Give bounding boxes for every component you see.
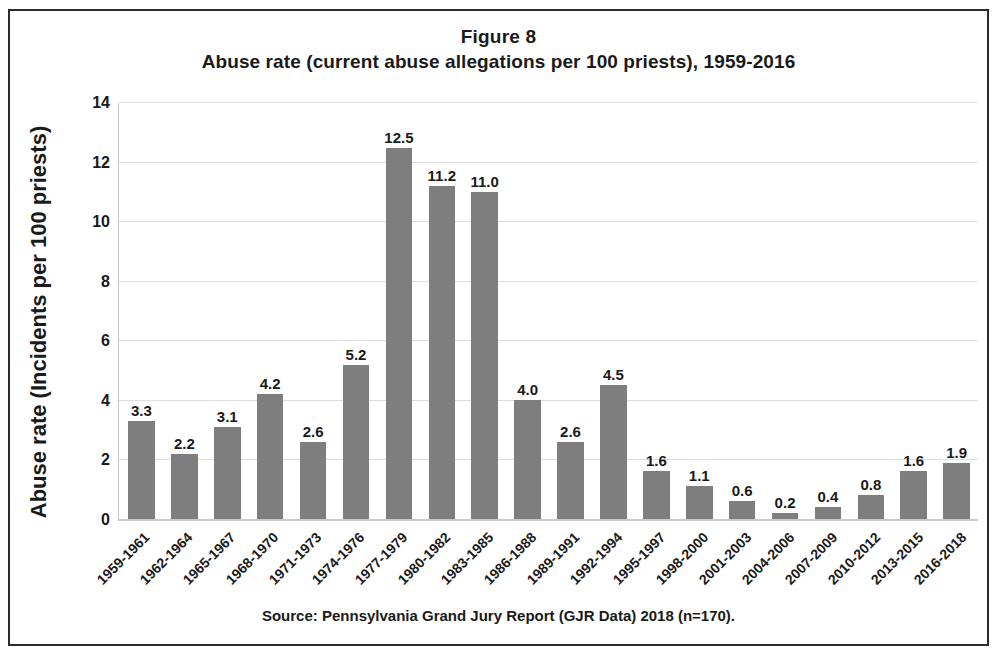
bar-value-label: 0.4	[818, 488, 839, 505]
bar[interactable]: 3.3	[128, 421, 155, 519]
bar-value-label: 1.1	[689, 467, 710, 484]
bar-slot: 1.6	[635, 103, 678, 519]
bar-value-label: 1.9	[946, 444, 967, 461]
bar[interactable]: 4.5	[600, 385, 627, 519]
y-axis-tick-label: 10	[92, 213, 110, 231]
bar[interactable]: 2.6	[300, 442, 327, 519]
bar-slot: 2.6	[549, 103, 592, 519]
bar-slot: 1.1	[678, 103, 721, 519]
y-axis-tick-label: 6	[101, 332, 110, 350]
bar-slot: 11.2	[420, 103, 463, 519]
bar-slot: 11.0	[463, 103, 506, 519]
bar[interactable]: 4.2	[257, 394, 284, 519]
plot-area: 02468101214 3.32.23.14.22.65.212.511.211…	[118, 103, 978, 521]
bar-slot: 2.2	[163, 103, 206, 519]
bar-slot: 3.1	[206, 103, 249, 519]
bar-value-label: 4.2	[260, 375, 281, 392]
bar-value-label: 5.2	[346, 346, 367, 363]
bar[interactable]: 1.6	[643, 471, 670, 519]
bar-value-label: 3.1	[217, 408, 238, 425]
bar-slot: 3.3	[120, 103, 163, 519]
plot-wrapper: 02468101214 3.32.23.14.22.65.212.511.211…	[118, 103, 978, 521]
bar[interactable]: 1.9	[943, 463, 970, 519]
bar-slot: 12.5	[377, 103, 420, 519]
bar[interactable]: 0.6	[729, 501, 756, 519]
bar[interactable]: 1.1	[686, 486, 713, 519]
bar-value-label: 0.6	[732, 482, 753, 499]
bar[interactable]: 11.0	[471, 192, 498, 519]
bar-slot: 0.4	[807, 103, 850, 519]
y-axis-tick-label: 4	[101, 392, 110, 410]
bar-value-label: 1.6	[646, 452, 667, 469]
chart-title-block: Figure 8 Abuse rate (current abuse alleg…	[10, 25, 987, 75]
y-axis-tick-label: 2	[101, 451, 110, 469]
bar-slot: 4.0	[506, 103, 549, 519]
bar-slot: 4.2	[249, 103, 292, 519]
bar-value-label: 11.2	[428, 167, 456, 184]
bar-value-label: 11.0	[471, 173, 499, 190]
bar[interactable]: 11.2	[429, 186, 456, 519]
bar[interactable]: 0.4	[815, 507, 842, 519]
bar-value-label: 4.5	[603, 366, 624, 383]
source-note: Source: Pennsylvania Grand Jury Report (…	[10, 607, 987, 624]
bar-slot: 2.6	[292, 103, 335, 519]
bar[interactable]: 4.0	[514, 400, 541, 519]
figure-number: Figure 8	[10, 25, 987, 49]
bar-value-label: 0.2	[775, 494, 796, 511]
bar-slot: 1.9	[935, 103, 978, 519]
y-axis-tick-label: 0	[101, 511, 110, 529]
bar-value-label: 3.3	[131, 402, 152, 419]
bar[interactable]: 2.6	[557, 442, 584, 519]
bar[interactable]: 2.2	[171, 454, 198, 519]
bar[interactable]: 0.2	[772, 513, 799, 519]
bar-value-label: 12.5	[384, 129, 413, 146]
bar-slot: 5.2	[335, 103, 378, 519]
gridline: 0	[119, 519, 978, 520]
chart-title: Abuse rate (current abuse allegations pe…	[10, 49, 987, 75]
bar-series: 3.32.23.14.22.65.212.511.211.04.02.64.51…	[120, 103, 978, 519]
bar-value-label: 2.6	[303, 423, 324, 440]
y-axis-tick-label: 14	[92, 94, 110, 112]
bar-value-label: 2.6	[560, 423, 581, 440]
bar[interactable]: 3.1	[214, 427, 241, 519]
bar-slot: 1.6	[892, 103, 935, 519]
figure-container: Figure 8 Abuse rate (current abuse alleg…	[8, 9, 989, 646]
y-axis-tick-label: 12	[92, 154, 110, 172]
bar-slot: 4.5	[592, 103, 635, 519]
bar-value-label: 4.0	[517, 381, 538, 398]
bar-value-label: 0.8	[860, 476, 881, 493]
bar-value-label: 1.6	[903, 452, 924, 469]
bar[interactable]: 12.5	[386, 148, 413, 519]
y-axis-tick-label: 8	[101, 273, 110, 291]
bar-slot: 0.2	[764, 103, 807, 519]
bar-slot: 0.6	[721, 103, 764, 519]
bar-slot: 0.8	[849, 103, 892, 519]
bar[interactable]: 0.8	[858, 495, 885, 519]
bar-value-label: 2.2	[174, 435, 195, 452]
bar[interactable]: 1.6	[900, 471, 927, 519]
bar[interactable]: 5.2	[343, 365, 370, 520]
y-axis-title: Abuse rate (Incidents per 100 priests)	[26, 107, 52, 537]
